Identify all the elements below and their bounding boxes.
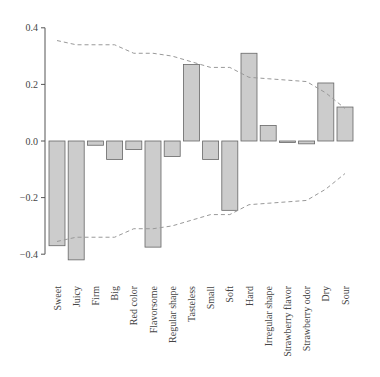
bar-tasteless: [183, 65, 199, 141]
x-tick-label: Dry: [320, 286, 331, 302]
x-tick-label: Red color: [128, 285, 139, 325]
bar-juicy: [68, 141, 84, 260]
x-tick-label: Strawberry flavor: [282, 285, 293, 356]
x-tick-label: Sweet: [52, 286, 63, 311]
bar-small: [203, 141, 219, 159]
bar-sweet: [49, 141, 65, 246]
bar-red-color: [126, 141, 142, 149]
x-tick-label: Big: [109, 286, 120, 300]
bar-firm: [87, 141, 103, 145]
bar-sour: [337, 107, 353, 141]
bar-irregular-shape: [260, 125, 276, 141]
x-tick-label: Juicy: [71, 286, 82, 307]
bar-big: [107, 141, 123, 159]
y-tick-label: 0.4: [26, 22, 39, 33]
bar-soft: [222, 141, 238, 210]
dashed-bound-line: [57, 174, 345, 242]
bars: [49, 53, 353, 260]
x-tick-label: Tasteless: [186, 286, 197, 322]
bar-hard: [241, 53, 257, 141]
x-tick-label: Regular shape: [167, 285, 178, 342]
bar-flavorsome: [145, 141, 161, 247]
dashed-bound-line: [57, 41, 345, 109]
y-tick-label: −0.2: [20, 192, 38, 203]
bar-strawberry-odor: [299, 141, 315, 144]
x-axis-labels: SweetJuicyFirmBigRed colorFlavorsomeRegu…: [52, 285, 351, 356]
x-tick-label: Strawberry odor: [301, 285, 312, 351]
y-tick-label: 0.0: [26, 136, 39, 147]
bar-dry: [318, 83, 334, 141]
y-tick-label: 0.2: [26, 79, 39, 90]
x-tick-label: Soft: [224, 286, 235, 303]
y-axis: 0.40.20.0−0.2−0.4: [20, 22, 45, 259]
bar-strawberry-flavor: [279, 141, 295, 143]
x-tick-label: Irregular shape: [263, 285, 274, 346]
x-tick-label: Firm: [90, 286, 101, 306]
x-tick-label: Small: [205, 286, 216, 310]
y-tick-label: −0.4: [20, 249, 38, 260]
bar-chart: 0.40.20.0−0.2−0.4 SweetJuicyFirmBigRed c…: [0, 0, 380, 377]
x-tick-label: Sour: [340, 285, 351, 305]
bar-regular-shape: [164, 141, 180, 157]
x-tick-label: Flavorsome: [148, 285, 159, 333]
x-tick-label: Hard: [244, 286, 255, 306]
